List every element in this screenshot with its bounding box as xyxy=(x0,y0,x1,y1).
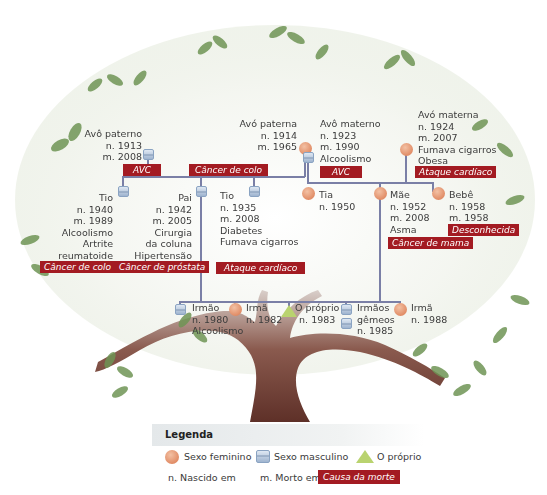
legend-self-label: O próprio xyxy=(377,451,421,462)
legend-died-label: m. Morto em xyxy=(260,472,321,483)
connector-mother-v xyxy=(379,182,381,302)
connector-gp-maternal-h xyxy=(307,182,433,184)
female-icon xyxy=(400,143,413,156)
male-icon xyxy=(341,318,352,329)
legend-male-label: Sexo masculino xyxy=(274,451,348,462)
self-info: O próprio n. 1983 xyxy=(295,302,339,325)
cause-badge: Ataque cardíaco xyxy=(415,166,496,178)
legend-male-icon xyxy=(256,450,270,463)
male-icon xyxy=(341,304,352,315)
sister-1988-info: Irmã n. 1988 xyxy=(411,302,447,325)
legend-title: Legenda xyxy=(152,424,424,446)
female-icon xyxy=(394,303,407,316)
maternal-grandfather-info: Avô materno n. 1923 m. 1990 Alcoolismo xyxy=(320,118,381,164)
connector-father-down xyxy=(200,186,202,302)
paternal-grandfather-info: Avô paterno n. 1913 m. 2008 xyxy=(74,128,142,163)
legend-born-label: n. Nascido em xyxy=(168,472,236,483)
connector-gp-paternal-h xyxy=(122,176,305,178)
legend-female-icon xyxy=(165,450,179,464)
cause-badge: Câncer de colo xyxy=(189,164,268,176)
connector-uncle1940-v xyxy=(122,176,124,186)
legend-female-label: Sexo feminino xyxy=(184,451,251,462)
maternal-grandmother-info: Avó materna n. 1924 m. 2007 Fumava cigar… xyxy=(418,109,496,167)
uncle-1935-info: Tio n. 1935 m. 2008 Diabetes Fumava ciga… xyxy=(220,190,298,248)
family-tree-diagram: Avô paterno n. 1913 m. 2008 AVC Avó pate… xyxy=(0,0,547,495)
legend: Legenda xyxy=(152,424,424,446)
connector-gf-maternal-v xyxy=(307,162,309,183)
mother-info: Mãe n. 1952 m. 2008 Asma xyxy=(390,189,429,235)
cause-badge: Câncer de próstata xyxy=(115,261,209,273)
aunt-info: Tia n. 1950 xyxy=(319,189,355,212)
cause-badge: Ataque cardíaco xyxy=(216,262,305,274)
sister-1982-info: Irmã n. 1982 xyxy=(246,302,282,325)
female-icon xyxy=(374,187,387,200)
female-icon xyxy=(229,303,242,316)
cause-badge: AVC xyxy=(320,166,362,178)
cause-badge: Desconhecida xyxy=(448,224,519,236)
legend-self-icon xyxy=(356,450,374,463)
cause-badge: Câncer de colo xyxy=(40,261,115,273)
male-icon xyxy=(303,152,314,163)
female-icon xyxy=(432,187,445,200)
twins-info: Irmãos gêmeos n. 1985 xyxy=(357,302,395,337)
female-icon xyxy=(302,187,315,200)
connector-father-v xyxy=(200,176,202,186)
cause-badge: Câncer de mama xyxy=(388,237,473,249)
uncle-1940-info: Tio n. 1940 m. 1989 Alcoolismo Artrite r… xyxy=(40,192,113,262)
legend-cause-badge: Causa da morte xyxy=(318,470,400,484)
father-info: Pai n. 1942 m. 2005 Cirurgia da coluna H… xyxy=(118,192,192,262)
male-icon xyxy=(196,186,207,197)
male-icon xyxy=(175,304,186,315)
male-icon xyxy=(143,149,154,160)
paternal-grandmother-info: Avó paterna n. 1914 m. 1965 xyxy=(222,118,297,153)
baby-info: Bebê n. 1958 m. 1958 xyxy=(449,189,488,224)
cause-badge: AVC xyxy=(123,164,161,176)
connector-uncle1935-v xyxy=(253,176,255,186)
